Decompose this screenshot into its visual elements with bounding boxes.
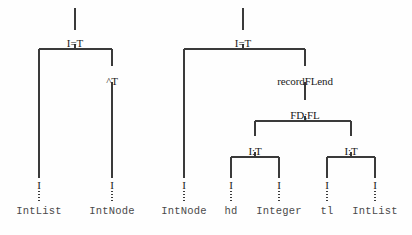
leaf-tl-mark: I <box>325 180 329 191</box>
left-root: I=T <box>67 38 83 49</box>
leaf-integer-mark: I <box>277 180 281 191</box>
right-it-right: I:T <box>344 146 357 157</box>
left-caret-t: ^T <box>106 76 118 87</box>
diagram-canvas: I=T^TIIntListIIntNodeI=TrecordFLendFD;FL… <box>0 0 412 235</box>
right-recordflend: recordFLend <box>277 76 333 87</box>
leaf-hd-mark: I <box>229 180 233 191</box>
leaf-hd-label: hd <box>224 206 237 217</box>
right-root: I=T <box>235 38 251 49</box>
leaf-integer-label: Integer <box>256 206 302 217</box>
right-fdfl: FD;FL <box>290 110 319 121</box>
leaf-intnode-1-label: IntNode <box>89 206 135 217</box>
tree-edges-layer <box>0 0 412 235</box>
leaf-intlist-1-label: IntList <box>16 206 62 217</box>
leaf-intnode-2-label: IntNode <box>161 206 207 217</box>
leaf-intnode-1-mark: I <box>110 180 114 191</box>
leaf-intlist-2-mark: I <box>373 180 377 191</box>
leaf-intnode-2-mark: I <box>182 180 186 191</box>
leaf-tl-label: tl <box>320 206 333 217</box>
leaf-intlist-1-mark: I <box>37 180 41 191</box>
leaf-intlist-2-label: IntList <box>352 206 398 217</box>
right-it-left: I:T <box>248 146 261 157</box>
